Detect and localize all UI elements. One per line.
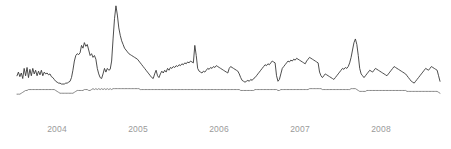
series-2-line <box>17 89 440 95</box>
line-chart: 20042005200620072008 <box>0 0 451 149</box>
chart-plot-area <box>0 0 451 149</box>
series-1-line <box>17 6 440 84</box>
